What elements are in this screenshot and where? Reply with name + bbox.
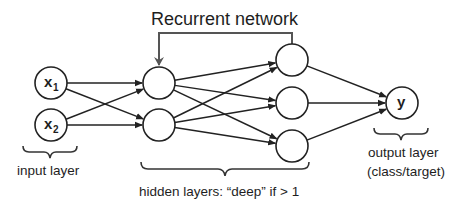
node-circle <box>276 44 308 76</box>
node-x1: x1 <box>35 67 67 99</box>
hidden-layers-brace <box>141 162 309 176</box>
connections <box>66 63 386 143</box>
input-layer-brace <box>23 146 77 158</box>
input-layer-caption: input layer <box>17 163 80 178</box>
recurrent-edge <box>159 33 292 65</box>
node-circle <box>276 130 308 162</box>
node-label: x <box>44 73 53 90</box>
diagram-title: Recurrent network <box>151 9 299 29</box>
edge-h1b-h2c <box>175 127 275 143</box>
edge-h1b-h2a <box>173 67 276 118</box>
node-circle <box>276 87 308 119</box>
recurrent-connection <box>154 33 292 66</box>
node-h1a <box>143 67 175 99</box>
node-circle <box>143 67 175 99</box>
node-h2a <box>276 44 308 76</box>
node-subscript: 2 <box>53 124 59 135</box>
edge-h2c-y <box>307 109 386 140</box>
node-y: y <box>386 87 418 119</box>
node-h2c <box>276 130 308 162</box>
neural-network-diagram: Recurrent network x1x2y input layer hidd… <box>0 0 463 206</box>
edge-h1a-h2a <box>175 63 275 80</box>
output-layer-caption-line1: output layer <box>368 145 439 160</box>
node-label: y <box>397 93 406 110</box>
hidden-layers-caption: hidden layers: “deep” if > 1 <box>139 184 299 199</box>
node-h2b <box>276 87 308 119</box>
output-layer-caption-line2: (class/target) <box>367 164 445 179</box>
edge-h1b-h2b <box>175 106 275 123</box>
edge-h2a-y <box>307 66 386 97</box>
node-label: x <box>44 115 53 132</box>
node-circle <box>143 109 175 141</box>
node-subscript: 1 <box>53 82 59 93</box>
node-h1b <box>143 109 175 141</box>
output-layer-brace <box>374 128 428 140</box>
node-x2: x2 <box>35 109 67 141</box>
